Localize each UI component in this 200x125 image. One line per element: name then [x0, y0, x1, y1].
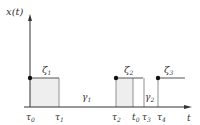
tick-t0: t0	[132, 112, 140, 123]
svg-text:ζ3: ζ3	[164, 64, 173, 76]
pulse-diagram: x(t) t τ0 τ1 τ2 t0 τ3 τ4 ζ1 ζ2 ζ3 γ1 γ2	[0, 0, 200, 125]
svg-text:τ2: τ2	[112, 112, 121, 123]
svg-text:t0: t0	[132, 112, 140, 123]
x-axis-label: t	[187, 113, 191, 123]
tick-tau0: τ0	[26, 112, 35, 123]
label-zeta2: ζ2	[124, 64, 133, 76]
svg-text:ζ2: ζ2	[124, 64, 133, 76]
svg-text:τ0: τ0	[26, 112, 35, 123]
tick-tau2: τ2	[112, 112, 121, 123]
dot-zeta2	[114, 76, 118, 80]
shaded-interval-2	[116, 78, 133, 107]
svg-text:τ1: τ1	[55, 112, 64, 123]
tick-tau4: τ4	[157, 112, 166, 123]
svg-text:τ3: τ3	[142, 112, 151, 123]
svg-text:γ1: γ1	[82, 92, 91, 103]
y-axis-arrow-icon	[28, 14, 32, 21]
svg-text:γ2: γ2	[145, 92, 154, 103]
label-gamma1: γ1	[82, 92, 91, 103]
label-zeta3: ζ3	[164, 64, 173, 76]
svg-text:ζ1: ζ1	[42, 64, 51, 76]
svg-text:τ4: τ4	[157, 112, 166, 123]
label-gamma2: γ2	[145, 92, 154, 103]
dot-zeta1	[28, 76, 32, 80]
tick-tau3: τ3	[142, 112, 151, 123]
dot-zeta3	[156, 76, 160, 80]
y-axis-label: x(t)	[6, 6, 24, 17]
tick-tau1: τ1	[55, 112, 64, 123]
label-zeta1: ζ1	[42, 64, 51, 76]
x-axis-arrow-icon	[184, 105, 192, 109]
shaded-interval-1	[30, 78, 59, 107]
